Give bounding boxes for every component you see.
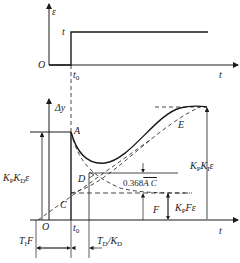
- top-step-level-label: t: [62, 27, 65, 37]
- pid-step-response-diagram: ε O t t0 t Δy A C D E F O t0 t KPKDε KPK…: [0, 0, 240, 263]
- kp-f-eps-label: KPFε: [175, 203, 196, 215]
- top-x-axis-label: t: [219, 70, 222, 80]
- step-input-line: [49, 32, 208, 65]
- point-d-label: D: [78, 174, 85, 184]
- bottom-t0-label: t0: [73, 223, 79, 235]
- top-chart: [49, 4, 238, 65]
- td-kd-label: TD/KD: [97, 236, 122, 248]
- kp-kd-eps-label: KPKDε: [3, 173, 29, 185]
- point-f-label: F: [153, 205, 159, 215]
- kp-ki-eps-label: KPKIε: [190, 161, 214, 173]
- bottom-origin-label: O: [42, 222, 49, 232]
- response-curve: [71, 106, 207, 163]
- point-a-label: A: [74, 126, 80, 136]
- point-c-label: C: [60, 200, 67, 210]
- point-e-label: E: [178, 120, 184, 130]
- bottom-y-axis-label: Δy: [55, 103, 65, 113]
- diagram-lines: [0, 0, 240, 263]
- bottom-x-axis-label: t: [219, 226, 222, 236]
- top-t0-label: t0: [73, 70, 79, 82]
- top-origin-label: O: [38, 60, 45, 70]
- ti-f-label: TIF: [19, 236, 33, 248]
- ratio-label: 0.368A C: [123, 179, 157, 188]
- top-y-axis-label: ε: [52, 7, 56, 17]
